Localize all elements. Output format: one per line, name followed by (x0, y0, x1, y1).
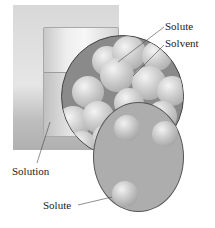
label-solvent: Solvent (165, 37, 199, 49)
label-solute-top: Solute (165, 20, 193, 32)
leader-lines (0, 0, 215, 228)
label-solution: Solution (12, 165, 49, 177)
label-solute-bottom: Solute (43, 199, 71, 211)
